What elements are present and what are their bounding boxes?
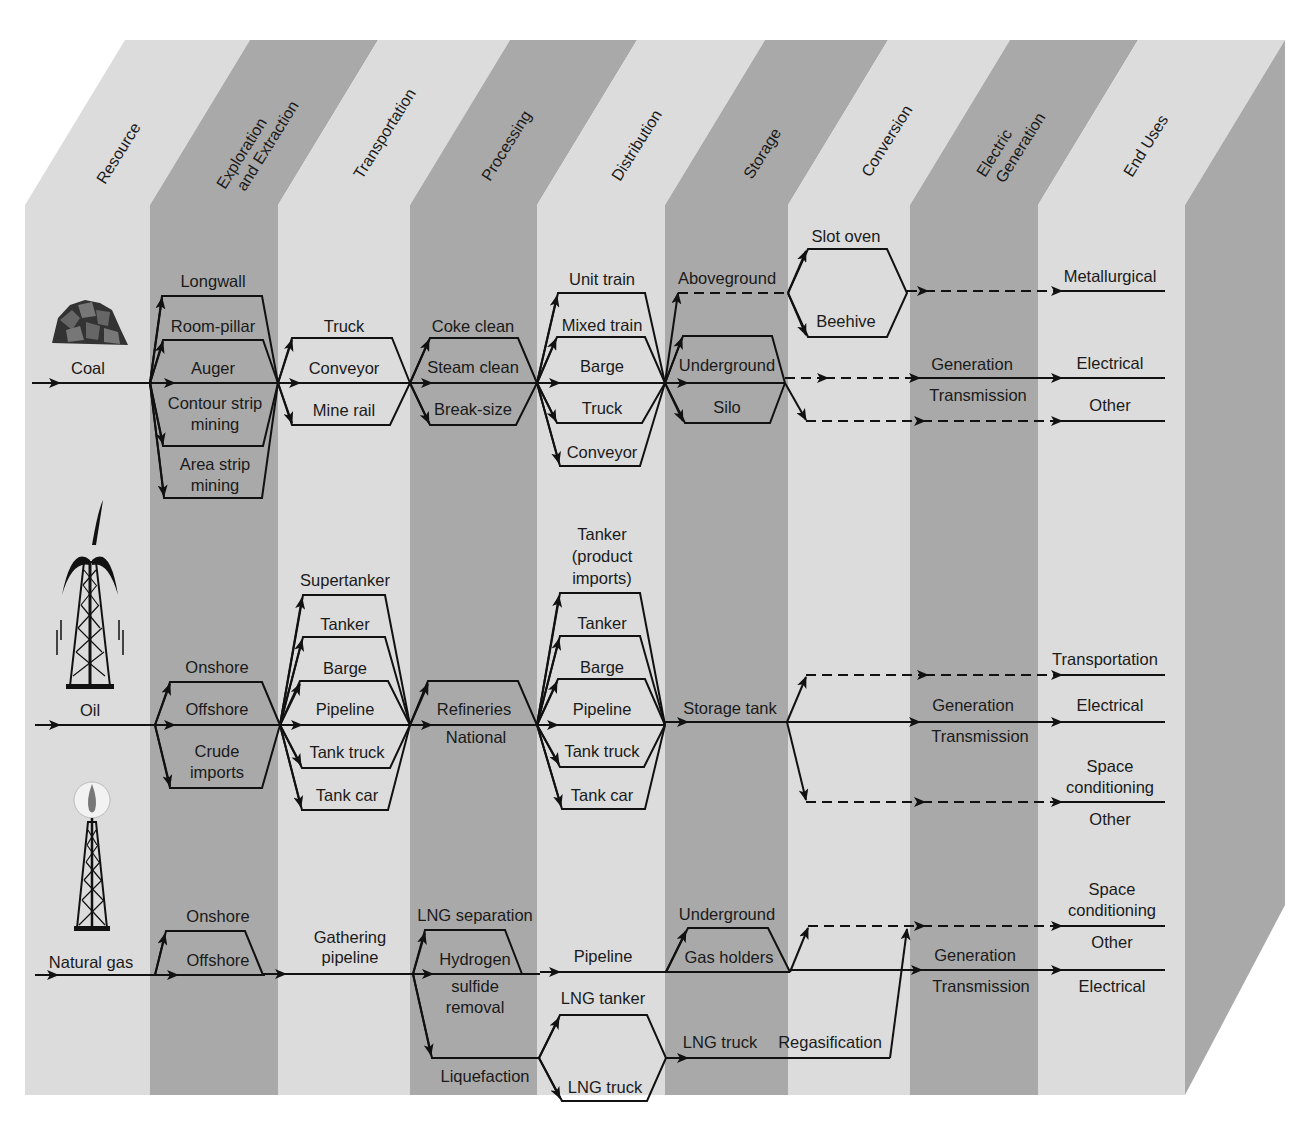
oil-distribution-tanker-product-3: imports) [572,569,632,587]
oil-end-use-electrical: Electrical [1077,696,1144,714]
band-side-face [1185,40,1285,1095]
coal-processing-break-size: Break-size [434,400,512,418]
gas-generation-label: Generation [934,946,1016,964]
oil-storage-tank: Storage tank [683,699,777,717]
coal-end-use-electrical: Electrical [1077,354,1144,372]
gas-end-use-electrical: Electrical [1079,977,1146,995]
oil-end-use-transportation: Transportation [1052,650,1158,668]
oil-distribution-pipeline: Pipeline [573,700,632,718]
oil-extraction-imports: imports [190,763,244,781]
coal-extraction-area-mining: mining [191,476,240,494]
coal-transport-mine-rail: Mine rail [313,401,375,419]
oil-extraction-onshore: Onshore [185,658,248,676]
coal-extraction-contour-strip: Contour strip [168,394,262,412]
coal-extraction-room-pillar: Room-pillar [171,317,256,335]
oil-transmission-label: Transmission [931,727,1029,745]
coal-extraction-longwall: Longwall [180,272,245,290]
oil-processing-national: National [446,728,507,746]
oil-generation-label: Generation [932,696,1014,714]
gas-storage-underground: Underground [679,905,775,923]
oil-distribution-tank-car: Tank car [571,786,634,804]
gas-end-use-space: Space [1089,880,1136,898]
oil-distribution-tank-truck: Tank truck [564,742,640,760]
coal-distribution-conveyor: Conveyor [567,443,638,461]
oil-transport-tank-truck: Tank truck [309,743,385,761]
gas-distribution-pipeline: Pipeline [574,947,633,965]
coal-end-use-metallurgical: Metallurgical [1064,267,1157,285]
coal-extraction-area-strip: Area strip [180,455,251,473]
gas-end-use-conditioning: conditioning [1068,901,1156,919]
oil-transport-supertanker: Supertanker [300,571,390,589]
coal-extraction-auger: Auger [191,359,236,377]
gas-storage-gas-holders: Gas holders [685,948,774,966]
coal-storage-underground: Underground [679,356,775,374]
coal-conversion-slot-oven: Slot oven [812,227,881,245]
coal-conversion-beehive: Beehive [816,312,876,330]
oil-distribution-tanker-product-1: Tanker [577,525,627,543]
coal-extraction-contour-mining: mining [191,415,240,433]
gas-processing-hydrogen: Hydrogen [439,950,511,968]
gas-distribution-lng-truck: LNG truck [568,1078,643,1096]
oil-processing-refineries: Refineries [437,700,511,718]
gas-storage-lng-truck: LNG truck [683,1033,758,1051]
coal-storage-aboveground: Aboveground [678,269,776,287]
oil-extraction-offshore: Offshore [186,700,249,718]
gas-transport-gathering: Gathering [314,928,386,946]
oil-distribution-tanker: Tanker [577,614,627,632]
gas-resource-label: Natural gas [49,953,133,971]
gas-distribution-lng-tanker: LNG tanker [561,989,646,1007]
oil-transport-tanker: Tanker [320,615,370,633]
coal-end-use-other: Other [1089,396,1131,414]
coal-distribution-mixed-train: Mixed train [562,316,643,334]
coal-processing-coke-clean: Coke clean [432,317,515,335]
coal-generation-label: Generation [931,355,1013,373]
coal-resource-label: Coal [71,359,105,377]
gas-processing-sulfide: sulfide [451,977,499,995]
gas-conversion-regasification: Regasification [778,1033,882,1051]
gas-extraction-offshore: Offshore [187,951,250,969]
coal-processing-steam-clean: Steam clean [427,358,519,376]
oil-resource-label: Oil [80,701,100,719]
oil-end-use-space: Space [1087,757,1134,775]
gas-processing-lng-separation: LNG separation [417,906,533,924]
coal-transport-truck: Truck [324,317,365,335]
coal-distribution-truck: Truck [582,399,623,417]
oil-distribution-barge: Barge [580,658,624,676]
coal-transport-conveyor: Conveyor [309,359,380,377]
coal-storage-silo: Silo [713,398,741,416]
oil-transport-barge: Barge [323,659,367,677]
gas-processing-removal: removal [446,998,505,1016]
oil-end-use-conditioning: conditioning [1066,778,1154,796]
gas-end-use-other: Other [1091,933,1133,951]
oil-end-use-other: Other [1089,810,1131,828]
gas-transmission-label: Transmission [932,977,1030,995]
coal-transmission-label: Transmission [929,386,1027,404]
coal-distribution-barge: Barge [580,357,624,375]
gas-processing-liquefaction: Liquefaction [441,1067,530,1085]
gas-extraction-onshore: Onshore [186,907,249,925]
energy-flow-diagram: Resource Exploration and Extraction Tran… [0,0,1300,1146]
oil-transport-tank-car: Tank car [316,786,379,804]
oil-transport-pipeline: Pipeline [316,700,375,718]
oil-extraction-crude: Crude [195,742,240,760]
oil-distribution-tanker-product-2: (product [572,547,633,565]
coal-distribution-unit-train: Unit train [569,270,635,288]
gas-transport-pipeline: pipeline [322,948,379,966]
